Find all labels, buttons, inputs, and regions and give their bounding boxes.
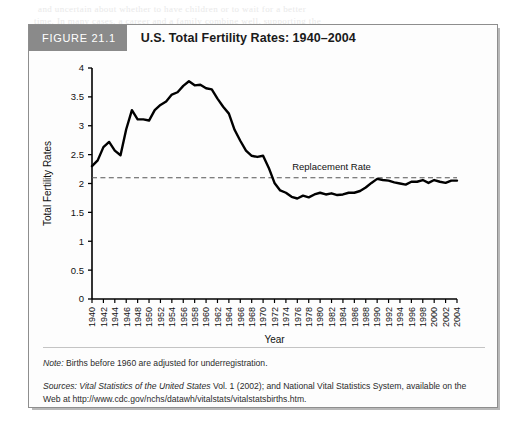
x-tick-label: 2004 (452, 307, 462, 327)
x-axis-title-group: Year (264, 334, 285, 345)
chart-plot-area: Total Fertility Rates 00.511.522.533.54 … (29, 51, 499, 351)
replacement-rate-label: Replacement Rate (292, 161, 371, 172)
x-tick-label: 1946 (122, 307, 132, 327)
figure-header: FIGURE 21.1 U.S. Total Fertility Rates: … (29, 25, 497, 51)
y-tick-label: 0 (79, 293, 84, 304)
x-tick-label: 1948 (133, 307, 143, 327)
x-tick-label: 2000 (429, 307, 439, 327)
x-tick-label: 2002 (441, 307, 451, 327)
x-tick-label: 1944 (110, 307, 120, 327)
x-tick-label: 1980 (315, 307, 325, 327)
sources-block: Sources: Vital Statistics of the United … (43, 380, 485, 405)
y-axis-ticks-group: 00.511.522.533.54 (71, 62, 92, 304)
x-tick-label: 1950 (144, 307, 154, 327)
x-tick-label: 1966 (236, 307, 246, 327)
sources-publication-title: Vital Statistics of the United States (77, 381, 211, 391)
x-tick-label: 1990 (372, 307, 382, 327)
notes-divider (43, 347, 485, 348)
x-tick-label: 1940 (87, 307, 97, 327)
y-tick-label: 1 (79, 236, 84, 247)
y-tick-label: 3.5 (71, 91, 84, 102)
x-tick-label: 1978 (304, 307, 314, 327)
x-tick-label: 1998 (418, 307, 428, 327)
x-tick-label: 1960 (201, 307, 211, 327)
x-tick-label: 1942 (99, 307, 109, 327)
y-axis-title-group: Total Fertility Rates (42, 141, 53, 226)
figure-number-badge: FIGURE 21.1 (29, 25, 127, 51)
x-tick-label: 1982 (327, 307, 337, 327)
x-axis-title: Year (264, 334, 285, 345)
x-tick-label: 1964 (224, 307, 234, 327)
sources-line-2: Web at http://www.cdc.gov/nchs/datawh/vi… (43, 393, 485, 405)
y-axis-title: Total Fertility Rates (42, 141, 53, 226)
x-tick-label: 1992 (384, 307, 394, 327)
note-line: Note: Births before 1960 are adjusted fo… (43, 357, 485, 369)
x-tick-label: 1970 (258, 307, 268, 327)
note-text: Births before 1960 are adjusted for unde… (64, 358, 268, 368)
sources-label: Sources: (43, 381, 77, 391)
y-tick-label: 0.5 (71, 265, 84, 276)
x-tick-label: 1984 (338, 307, 348, 327)
x-tick-label: 1972 (270, 307, 280, 327)
note-label: Note: (43, 358, 64, 368)
replacement-rate-group: Replacement Rate (92, 161, 457, 178)
sources-text-first: Vol. 1 (2002); and National Vital Statis… (211, 381, 467, 391)
figure-card: FIGURE 21.1 U.S. Total Fertility Rates: … (28, 24, 498, 408)
bleed-line-1: and uncertain about whether to have chil… (38, 4, 306, 14)
sources-line-1: Sources: Vital Statistics of the United … (43, 380, 485, 392)
y-tick-label: 1.5 (71, 207, 84, 218)
figure-title: U.S. Total Fertility Rates: 1940–2004 (127, 25, 356, 51)
x-tick-label: 1952 (156, 307, 166, 327)
x-tick-label: 1958 (190, 307, 200, 327)
data-line-group (92, 81, 457, 198)
y-tick-label: 2.5 (71, 149, 84, 160)
x-tick-label: 1994 (395, 307, 405, 327)
fertility-rate-line (92, 81, 457, 198)
y-tick-label: 3 (79, 120, 84, 131)
figure-notes: Note: Births before 1960 are adjusted fo… (29, 347, 499, 405)
x-tick-label: 1968 (247, 307, 257, 327)
x-axis-ticks-group: 1940194219441946194819501952195419561958… (87, 299, 462, 327)
y-tick-label: 4 (79, 62, 84, 73)
y-tick-label: 2 (79, 178, 84, 189)
x-tick-label: 1996 (407, 307, 417, 327)
x-tick-label: 1974 (281, 307, 291, 327)
x-tick-label: 1954 (167, 307, 177, 327)
x-tick-label: 1956 (179, 307, 189, 327)
fertility-rate-line-chart: Total Fertility Rates 00.511.522.533.54 … (29, 51, 499, 351)
x-tick-label: 1986 (350, 307, 360, 327)
x-tick-label: 1988 (361, 307, 371, 327)
x-tick-label: 1962 (213, 307, 223, 327)
x-tick-label: 1976 (293, 307, 303, 327)
